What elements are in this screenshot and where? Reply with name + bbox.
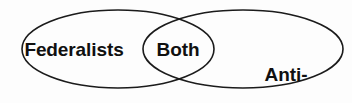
venn-diagram: Federalists Both Anti- federalists <box>0 0 352 103</box>
right-set-label-line1: Anti- <box>228 65 344 84</box>
left-set-label: Federalists <box>16 40 132 59</box>
intersection-label: Both <box>146 40 210 59</box>
right-set-label: Anti- federalists <box>228 26 344 103</box>
